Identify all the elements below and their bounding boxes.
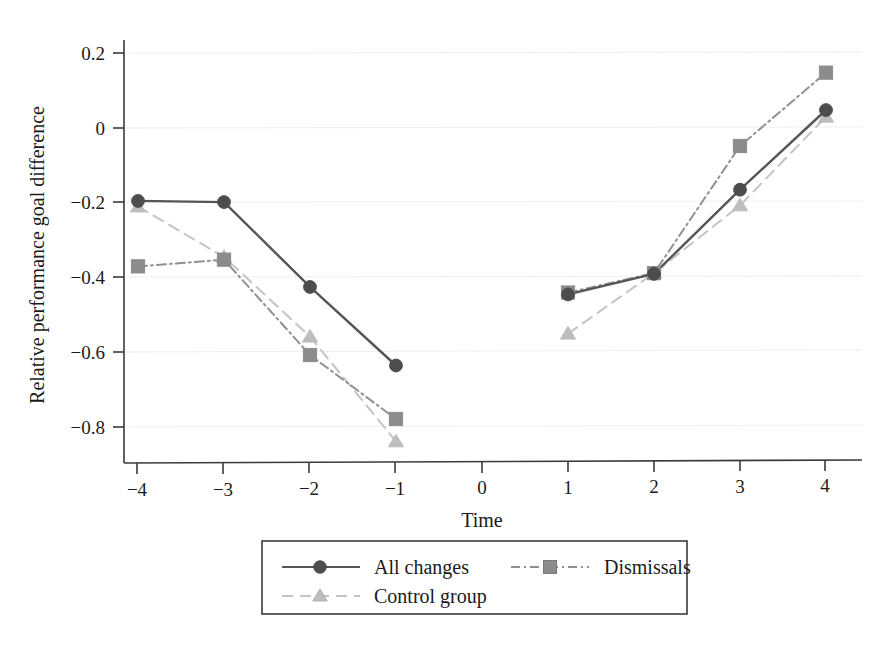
y-tick-label: −0.6 <box>71 342 105 363</box>
x-tick-label: 3 <box>735 476 745 497</box>
chart-figure: 0.2 0 −0.2 −0.4 −0.6 −0.8 −4 −3 −2 <box>0 0 870 652</box>
gridline <box>124 350 862 352</box>
y-axis-ticks <box>113 53 124 427</box>
x-tick-label: 1 <box>563 477 573 498</box>
gridline <box>124 425 862 427</box>
circle-marker-icon <box>820 104 833 117</box>
circle-marker-icon <box>304 281 317 294</box>
series-line <box>568 117 826 334</box>
circle-marker-icon <box>218 196 231 209</box>
series-line <box>138 207 396 442</box>
circle-marker-icon <box>562 288 575 301</box>
triangle-marker-icon <box>560 327 575 340</box>
series-line <box>138 201 396 366</box>
gridline <box>124 127 862 128</box>
circle-marker-icon <box>734 183 747 196</box>
circle-marker-icon <box>648 267 661 280</box>
legend-label: Control group <box>374 585 487 608</box>
x-tick-label: −3 <box>213 479 233 500</box>
x-tick-label: −2 <box>299 478 319 499</box>
circle-marker-icon <box>314 561 326 573</box>
x-tick-label: −4 <box>127 479 148 500</box>
square-marker-icon <box>544 561 557 574</box>
square-marker-icon <box>819 66 832 79</box>
square-marker-icon <box>217 253 230 266</box>
x-axis-line <box>124 460 862 463</box>
x-tick-label: 0 <box>477 477 487 498</box>
y-tick-label: 0.2 <box>81 43 105 64</box>
series-markers <box>130 66 833 447</box>
series-line <box>568 110 826 294</box>
square-marker-icon <box>733 139 746 152</box>
y-tick-label: −0.2 <box>71 192 105 213</box>
gridline <box>124 201 862 202</box>
x-axis: −4 −3 −2 −1 0 1 2 3 4 <box>124 460 862 500</box>
square-marker-icon <box>303 348 316 361</box>
y-tick-label: 0 <box>96 118 106 139</box>
square-marker-icon <box>131 260 144 273</box>
gridline <box>124 276 862 277</box>
y-axis: 0.2 0 −0.2 −0.4 −0.6 −0.8 <box>71 40 124 463</box>
series-line <box>568 73 826 293</box>
x-tick-label: 4 <box>820 475 830 496</box>
legend-label: Dismissals <box>604 556 691 578</box>
x-axis-title: Time <box>461 509 503 531</box>
x-tick-label: 2 <box>649 476 659 497</box>
y-axis-title: Relative performance goal difference <box>26 106 49 404</box>
gridline <box>124 52 862 53</box>
gridlines <box>124 52 862 427</box>
legend-label: All changes <box>374 556 469 579</box>
y-tick-label: −0.4 <box>71 267 106 288</box>
y-tick-label: −0.8 <box>71 417 105 438</box>
x-tick-label: −1 <box>385 478 405 499</box>
square-marker-icon <box>389 412 402 425</box>
circle-marker-icon <box>132 195 145 208</box>
legend: All changes Dismissals Control group <box>262 541 691 614</box>
circle-marker-icon <box>390 359 403 372</box>
line-chart: 0.2 0 −0.2 −0.4 −0.6 −0.8 −4 −3 −2 <box>0 0 870 652</box>
